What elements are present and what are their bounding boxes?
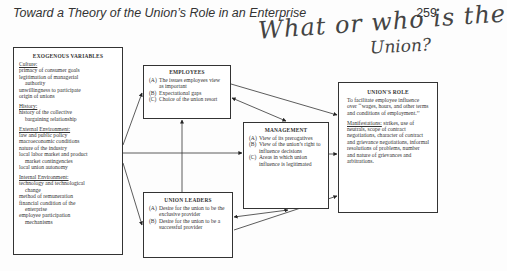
list-item: origin of unions <box>19 93 117 99</box>
item-text: Areas in which union influence is legiti… <box>259 154 323 167</box>
list-item: bargaining relationship <box>19 116 117 122</box>
external-environment-section: External Environment: law and public pol… <box>19 126 117 171</box>
employees-title: EMPLOYEES <box>149 69 225 75</box>
item-label: (C) <box>249 154 259 167</box>
unions-role-title: UNION'S ROLE <box>347 89 429 95</box>
union-leaders-title: UNION LEADERS <box>149 197 227 203</box>
management-title: MANAGEMENT <box>249 127 323 133</box>
union-leaders-box: UNION LEADERS (A)Desire for the union to… <box>143 192 233 258</box>
list-item: (A)Desire for the union to be the exclus… <box>149 205 227 218</box>
internal-environment-section: Internal Environment: technology and tec… <box>19 174 117 225</box>
unions-role-box: UNION'S ROLE To facilitate employee infl… <box>338 82 438 213</box>
arrow-employees-management <box>232 98 286 121</box>
item-label: (A) <box>149 205 159 218</box>
list-item: (C)Areas in which union influence is leg… <box>249 154 323 167</box>
arrow-employees-to-unions-role <box>231 84 337 115</box>
exogenous-title: EXOGENOUS VARIABLES <box>19 53 117 59</box>
manifestations-text: strikes, use of neutrals, scope of contr… <box>347 120 429 164</box>
unions-role-purpose: To facilitate employee influence over ‘‘… <box>347 97 429 116</box>
list-item: mechanisms <box>19 219 117 225</box>
item-text: View of the union’s right to influence d… <box>259 141 323 154</box>
list-item: (A)The issues employees view as importan… <box>149 77 225 90</box>
arrow-exogenous-to-union-leaders <box>123 163 142 225</box>
item-text: Desire for the union to be the exclusive… <box>159 205 227 218</box>
exogenous-variables-box: EXOGENOUS VARIABLES Culture: primacy of … <box>13 47 123 255</box>
history-section: History: history of the collective barga… <box>19 103 117 122</box>
manifestations-section: Manifestations: strikes, use of neutrals… <box>347 120 429 165</box>
item-label: (A) <box>149 77 159 90</box>
list-item: (B)Desire for the union to be a successf… <box>149 218 227 231</box>
item-text: The issues employees view as important <box>159 77 225 90</box>
employees-box: EMPLOYEES (A)The issues employees view a… <box>143 65 231 119</box>
list-item: (C)Choice of the union resort <box>149 96 225 102</box>
arrow-leaders-management <box>234 210 288 217</box>
item-label: (B) <box>149 218 159 231</box>
arrow-exogenous-to-employees <box>123 93 142 145</box>
item-label: (C) <box>149 96 159 102</box>
list-item: local union autonomy <box>19 164 117 170</box>
list-item: (B)View of the union’s right to influenc… <box>249 141 323 154</box>
item-text: Desire for the union to be a successful … <box>159 218 227 231</box>
item-label: (B) <box>249 141 259 154</box>
management-box: MANAGEMENT (A)View of its prerogatives (… <box>243 122 329 209</box>
culture-section: Culture: primacy of consumer goals legit… <box>19 61 117 99</box>
manifestations-heading: Manifestations: <box>347 120 382 126</box>
item-text: Choice of the union resort <box>159 96 217 102</box>
